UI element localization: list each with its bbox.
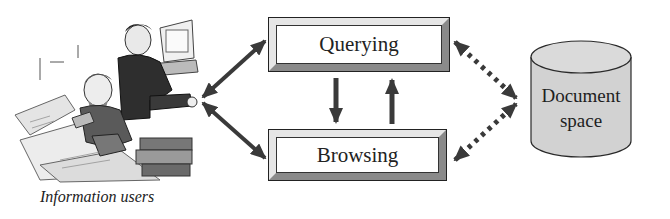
browsing-box: Browsing — [268, 129, 447, 181]
document-space-line1: Document — [531, 83, 631, 108]
users-browsing-arrow — [203, 103, 265, 158]
document-space-line2: space — [531, 108, 631, 133]
querying-label: Querying — [276, 25, 442, 64]
users-querying-arrow — [203, 41, 265, 97]
document-space-label: Document space — [531, 83, 631, 133]
querying-box: Querying — [268, 17, 450, 72]
browsing-label: Browsing — [276, 137, 439, 173]
querying-document-dotted-arrow — [455, 42, 516, 98]
browsing-document-dotted-arrow — [455, 104, 516, 160]
